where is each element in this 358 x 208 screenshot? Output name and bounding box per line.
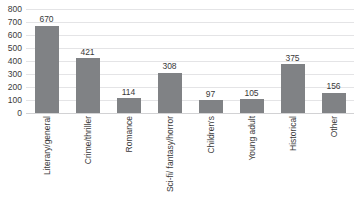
x-axis-category: Literary/general <box>26 116 67 208</box>
bar-series: 670 421 114 308 97 105 375 156 <box>26 9 354 113</box>
bar-value-label: 114 <box>122 88 136 97</box>
bar-group: 97 <box>190 9 231 113</box>
bar-group: 114 <box>108 9 149 113</box>
x-axis-label: Young adult <box>247 116 256 161</box>
bar-group: 105 <box>231 9 272 113</box>
bar <box>240 99 264 113</box>
y-axis-tick: 100 <box>0 96 26 105</box>
bar <box>76 58 100 113</box>
bar-group: 156 <box>313 9 354 113</box>
bar-chart: 800 700 600 500 400 300 200 100 0 670 42… <box>0 0 358 208</box>
bar-value-label: 670 <box>39 15 53 24</box>
x-axis-label: Other <box>329 116 338 137</box>
y-axis-tick: 0 <box>0 109 26 118</box>
bar <box>322 93 346 113</box>
x-axis-label: Romance <box>124 116 133 152</box>
x-axis-category: Children's <box>190 116 231 208</box>
x-axis-category: Crime/thriller <box>67 116 108 208</box>
bar-value-label: 308 <box>162 62 176 71</box>
x-axis-label: Crime/thriller <box>83 116 92 164</box>
bar-group: 421 <box>67 9 108 113</box>
bar-value-label: 97 <box>206 90 215 99</box>
x-axis-category: Historical <box>272 116 313 208</box>
x-axis-label: Children's <box>206 116 215 154</box>
y-axis-tick: 200 <box>0 83 26 92</box>
x-axis: Literary/general Crime/thriller Romance … <box>26 116 354 208</box>
bar-group: 308 <box>149 9 190 113</box>
bar <box>158 73 182 113</box>
axis-baseline <box>26 113 354 114</box>
x-axis-label: Sci-fi/ fantasy/horror <box>165 116 174 192</box>
x-axis-label: Historical <box>288 116 297 151</box>
bar-value-label: 375 <box>285 54 299 63</box>
y-axis-tick: 400 <box>0 57 26 66</box>
bar-value-label: 105 <box>244 89 258 98</box>
bar <box>117 98 141 113</box>
y-axis-tick: 700 <box>0 18 26 27</box>
x-axis-category: Romance <box>108 116 149 208</box>
y-axis-tick: 600 <box>0 31 26 40</box>
bar-group: 375 <box>272 9 313 113</box>
x-axis-category: Sci-fi/ fantasy/horror <box>149 116 190 208</box>
bar <box>35 26 59 113</box>
x-axis-category: Young adult <box>231 116 272 208</box>
x-axis-label: Literary/general <box>42 116 51 175</box>
bar <box>281 64 305 113</box>
y-axis-tick: 800 <box>0 5 26 14</box>
bar-value-label: 156 <box>326 82 340 91</box>
bar-value-label: 421 <box>80 48 94 57</box>
x-axis-category: Other <box>313 116 354 208</box>
bar-group: 670 <box>26 9 67 113</box>
bar <box>199 100 223 113</box>
y-axis-tick: 500 <box>0 44 26 53</box>
y-axis-tick: 300 <box>0 70 26 79</box>
